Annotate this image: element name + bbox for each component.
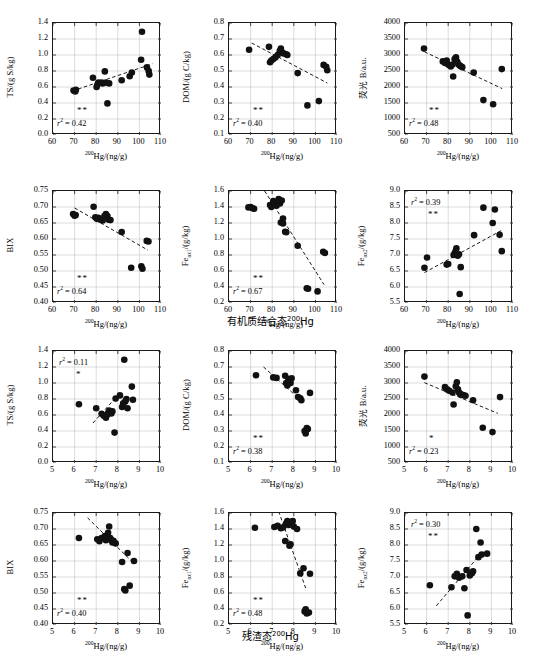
plot-area-p1 [52, 22, 160, 134]
plot-area-p3 [404, 22, 512, 134]
plot-area-p10 [52, 512, 160, 624]
x-tick-label: 7 [435, 465, 459, 474]
r-squared-annotation: r2 = 0.64 [57, 285, 86, 296]
y-tick-label: 7.0 [372, 249, 400, 258]
plot-area-p5 [228, 190, 336, 302]
y-tick-label: 0.55 [20, 249, 48, 258]
r-squared-annotation: r2 = 0.11 [59, 356, 88, 367]
y-tick-label: 7.0 [372, 571, 400, 580]
x-tick-label: 90 [281, 137, 305, 146]
y-axis-label: DOM/(g C/kg) [181, 350, 191, 460]
figure-root: 0.00.20.40.60.81.01.21.46070809010011020… [0, 0, 541, 653]
y-tick-label: 0.45 [20, 603, 48, 612]
y-axis-label: TS/(g S/kg) [5, 22, 15, 132]
y-tick-label: 6.5 [372, 587, 400, 596]
y-tick-label: 0.3 [196, 97, 224, 106]
y-tick-label: 0.1 [196, 457, 224, 466]
y-tick-label: 1500 [372, 97, 400, 106]
y-tick-label: 0.6 [196, 265, 224, 274]
significance-marker: * [429, 433, 435, 443]
r-squared-annotation: r2 = 0.67 [233, 285, 262, 296]
x-tick-label: 7 [83, 465, 107, 474]
y-tick-label: 0.6 [20, 81, 48, 90]
y-tick-label: 0.40 [20, 619, 48, 628]
y-tick-label: 0.4 [20, 425, 48, 434]
y-tick-label: 1.4 [20, 17, 48, 26]
y-tick-label: 500 [372, 457, 400, 466]
x-tick-label: 90 [105, 137, 129, 146]
y-tick-label: 0.75 [20, 185, 48, 194]
y-tick-label: 0.6 [196, 49, 224, 58]
y-axis-label: DOM/(g C/kg) [181, 22, 191, 132]
y-axis-label: Feox1/(g/kg) [180, 191, 192, 301]
y-tick-label: 0.2 [196, 619, 224, 628]
y-tick-label: 0.8 [20, 65, 48, 74]
y-tick-label: 1.0 [196, 233, 224, 242]
y-tick-label: 0.8 [196, 345, 224, 354]
significance-marker: ** [253, 105, 264, 115]
r-squared-annotation: r2 = 0.48 [409, 117, 438, 128]
r-squared-annotation: r2 = 0.42 [57, 117, 86, 128]
x-tick-label: 80 [83, 137, 107, 146]
x-tick-label: 90 [457, 137, 481, 146]
x-tick-label: 6 [414, 465, 438, 474]
y-tick-label: 0.2 [20, 441, 48, 450]
x-tick-label: 80 [435, 137, 459, 146]
x-tick-label: 5 [216, 465, 240, 474]
y-tick-label: 0.70 [20, 201, 48, 210]
x-tick-label: 10 [500, 465, 524, 474]
y-tick-label: 1000 [372, 441, 400, 450]
x-tick-label: 6 [62, 465, 86, 474]
x-tick-label: 100 [126, 137, 150, 146]
plot-area-p2 [228, 22, 336, 134]
y-tick-label: 1.4 [20, 345, 48, 354]
y-tick-label: 7.5 [372, 233, 400, 242]
y-tick-label: 8.0 [372, 217, 400, 226]
y-tick-label: 0.60 [20, 233, 48, 242]
r-squared-annotation: r2 = 0.38 [233, 445, 262, 456]
plot-area-p6 [404, 190, 512, 302]
y-tick-label: 0.70 [20, 523, 48, 532]
y-axis-label: TS/(g S/kg) [5, 350, 15, 460]
x-axis-label: 200Hg/(ng/g) [404, 150, 512, 161]
y-tick-label: 0.65 [20, 217, 48, 226]
plot-area-p8 [228, 350, 336, 462]
y-tick-label: 0.0 [20, 457, 48, 466]
y-axis-label: BIX [5, 190, 15, 300]
y-tick-label: 3500 [372, 33, 400, 42]
y-tick-label: 0.7 [196, 33, 224, 42]
x-axis-label: 200Hg/(ng/g) [228, 150, 336, 161]
x-tick-label: 70 [414, 137, 438, 146]
significance-marker: ** [77, 273, 88, 283]
plot-area-p4 [52, 190, 160, 302]
significance-marker: ** [253, 433, 264, 443]
plot-area-p7 [52, 350, 160, 462]
r-squared-annotation: r2 = 0.30 [411, 518, 440, 529]
x-tick-label: 9 [478, 465, 502, 474]
significance-marker: ** [428, 209, 439, 219]
y-tick-label: 0.8 [196, 249, 224, 258]
y-tick-label: 0.6 [20, 409, 48, 418]
x-tick-label: 70 [62, 137, 86, 146]
y-tick-label: 7.5 [372, 555, 400, 564]
y-tick-label: 1.4 [196, 523, 224, 532]
significance-marker: ** [77, 595, 88, 605]
significance-marker: * [76, 369, 82, 379]
x-tick-label: 110 [148, 137, 172, 146]
y-axis-label: 荧光 B/a.u. [356, 351, 368, 461]
y-tick-label: 0.4 [196, 281, 224, 290]
x-tick-label: 100 [302, 137, 326, 146]
y-tick-label: 0.2 [20, 113, 48, 122]
section-caption: 残渣态200Hg [0, 628, 541, 643]
x-axis-label: 200Hg/(ng/g) [52, 478, 160, 489]
x-axis-label: 200Hg/(ng/g) [404, 478, 512, 489]
y-axis-label: BIX [5, 512, 15, 622]
y-tick-label: 0.50 [20, 265, 48, 274]
x-tick-label: 70 [238, 137, 262, 146]
y-tick-label: 1.2 [196, 217, 224, 226]
plot-area-p12 [404, 512, 512, 624]
y-tick-label: 1.0 [20, 377, 48, 386]
y-tick-label: 0.40 [20, 297, 48, 306]
significance-marker: ** [429, 105, 440, 115]
y-tick-label: 0.60 [20, 555, 48, 564]
